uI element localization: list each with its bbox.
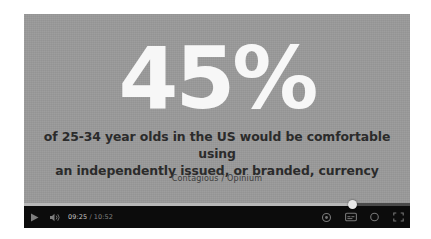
fullscreen-icon [393,212,404,222]
headline-statistic: 45% [24,30,410,126]
theater-icon [369,212,380,222]
body-copy-line-1: of 25-34 year olds in the US would be co… [44,129,390,161]
volume-icon [49,212,61,223]
fullscreen-button[interactable] [392,211,405,224]
controls-right-group [320,206,405,228]
subtitles-button[interactable] [344,211,357,224]
video-slide: 45% of 25-34 year olds in the US would b… [24,14,410,228]
current-time: 09:25 [68,213,87,221]
play-button[interactable] [28,211,41,224]
theater-mode-button[interactable] [368,211,381,224]
body-copy: of 25-34 year olds in the US would be co… [36,128,398,179]
video-player[interactable]: 45% of 25-34 year olds in the US would b… [24,14,410,228]
settings-button[interactable] [320,211,333,224]
attribution-text: Contagious / Opinium [24,174,410,183]
play-icon [29,212,40,223]
gear-icon [321,212,332,223]
controls-left-group: 09:25 / 10:52 [28,206,113,228]
total-time: 10:52 [94,213,113,221]
time-separator: / [87,213,94,221]
player-control-bar: 09:25 / 10:52 [24,206,410,228]
subtitles-icon [345,212,357,222]
volume-button[interactable] [48,211,61,224]
page-background: 45% of 25-34 year olds in the US would b… [0,0,431,239]
time-display: 09:25 / 10:52 [68,213,113,221]
